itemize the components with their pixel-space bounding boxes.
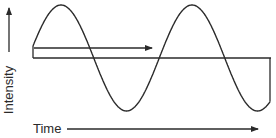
- intensity-axis-label: Intensity: [1, 65, 16, 114]
- intensity-time-diagram: Intensity Time: [0, 0, 276, 138]
- time-axis-label: Time: [33, 121, 61, 136]
